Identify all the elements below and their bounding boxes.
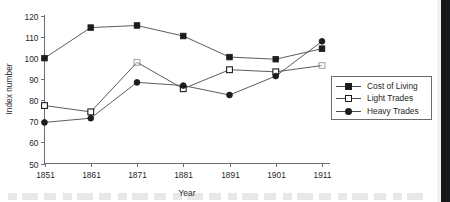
- data-point: [180, 83, 186, 89]
- y-tick-label: 120: [25, 12, 39, 22]
- x-tick-label: 1911: [313, 170, 331, 180]
- data-point: [42, 55, 48, 61]
- series-markers: [42, 23, 325, 126]
- data-point: [88, 25, 94, 31]
- y-tick-label: 90: [29, 75, 39, 85]
- legend-item-light-trades: Light Trades: [332, 93, 431, 106]
- x-tick-label: 1871: [128, 170, 147, 180]
- legend-label: Heavy Trades: [367, 106, 419, 117]
- chart-screenshot: 5060708090100110120 18511861187118811891…: [0, 0, 450, 202]
- data-point: [273, 73, 279, 79]
- legend-item-cost-of-living: Cost of Living: [332, 80, 431, 93]
- y-tick-label: 100: [25, 54, 39, 64]
- y-tick-label: 110: [25, 33, 39, 43]
- data-point: [42, 120, 48, 126]
- y-tick-labels: 5060708090100110120: [25, 12, 39, 170]
- scan-edge-band: [441, 0, 450, 202]
- legend-marker-filled-circle-icon: [336, 106, 361, 117]
- data-point: [319, 46, 325, 52]
- data-point: [273, 56, 279, 62]
- x-tick-label: 1861: [82, 170, 101, 180]
- legend-marker-open-square-icon: [336, 93, 361, 104]
- page-bleed-artifact: [8, 193, 428, 200]
- data-point: [134, 59, 140, 65]
- data-point: [227, 92, 233, 98]
- y-tick-label: 60: [29, 138, 39, 148]
- legend-label: Light Trades: [367, 93, 413, 104]
- chart-legend: Cost of Living Light Trades Heavy Trades: [331, 76, 432, 120]
- data-point: [42, 103, 48, 109]
- data-point: [134, 23, 140, 29]
- data-point: [227, 67, 233, 73]
- data-point: [88, 109, 94, 115]
- data-point: [134, 79, 140, 85]
- series-lines: [45, 25, 323, 122]
- y-axis-title: Index number: [4, 63, 14, 114]
- x-tick-label: 1881: [174, 170, 193, 180]
- x-tick-label: 1901: [267, 170, 286, 180]
- data-point: [180, 33, 186, 39]
- x-tick-label: 1891: [221, 170, 240, 180]
- data-point: [88, 115, 94, 121]
- legend-marker-filled-square-icon: [336, 81, 361, 92]
- x-tick-labels: 1851186118711881189119011911: [36, 170, 332, 180]
- y-tick-label: 50: [29, 160, 39, 170]
- legend-item-heavy-trades: Heavy Trades: [332, 105, 431, 118]
- x-tick-label: 1851: [36, 170, 55, 180]
- data-point: [319, 63, 325, 69]
- data-point: [227, 54, 233, 60]
- series-line-cost-of-living: [45, 25, 323, 59]
- y-tick-label: 80: [29, 96, 39, 106]
- series-line-heavy-trades: [45, 41, 323, 122]
- legend-label: Cost of Living: [367, 81, 418, 92]
- y-tick-label: 70: [29, 117, 39, 127]
- data-point: [319, 38, 325, 44]
